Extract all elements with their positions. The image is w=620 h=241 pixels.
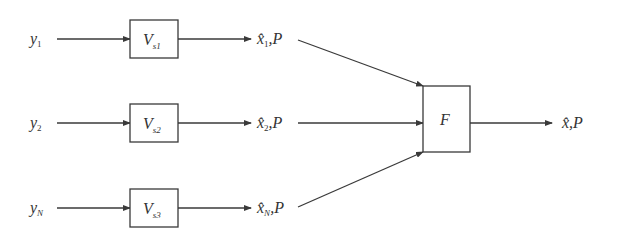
fusion-f-label: F: [439, 111, 450, 128]
input-yn-label: yN: [28, 199, 44, 218]
estimate-xn-label: x̂N,P: [256, 199, 284, 218]
filter-box-vs3: [130, 189, 178, 227]
branch-2: y2 Vs2 x̂2,P: [28, 104, 423, 142]
branch-n: yN Vs3 x̂N,P: [28, 152, 423, 227]
input-y2-label: y2: [28, 114, 42, 133]
filter-box-vs2: [130, 104, 178, 142]
fusion-block: F x̂,P: [423, 86, 583, 152]
output-x-label: x̂,P: [561, 114, 583, 131]
block-diagram: y1 Vs1 x̂1,P y2 Vs2 x̂2,P yN Vs3 x̂N,P F…: [0, 0, 620, 241]
input-y1-label: y1: [28, 30, 42, 49]
arrow-xn-to-fusion: [298, 152, 423, 207]
branch-1: y1 Vs1 x̂1,P: [28, 20, 423, 86]
filter-box-vs1: [130, 20, 178, 58]
estimate-x1-label: x̂1,P: [256, 30, 283, 49]
arrow-x1-to-fusion: [298, 40, 423, 86]
estimate-x2-label: x̂2,P: [256, 114, 283, 133]
